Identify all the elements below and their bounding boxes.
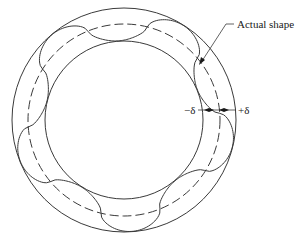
plus-delta-label: +δ — [238, 104, 249, 116]
actual-shape-label: Actual shape — [237, 18, 294, 30]
minus-delta-label: −δ — [184, 104, 195, 116]
actual-shape-curve — [18, 20, 234, 232]
inner-circle — [45, 41, 203, 199]
delta-dimension — [198, 108, 236, 112]
mean-dashed-circle — [28, 24, 220, 216]
roundness-diagram: Actual shape −δ +δ — [0, 0, 299, 239]
actual-shape-leader — [199, 24, 234, 65]
